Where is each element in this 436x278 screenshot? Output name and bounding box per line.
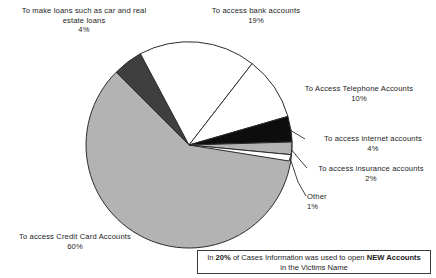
slice-label-insurance-accounts: To access insurance accounts 2%: [306, 164, 436, 183]
callout-percent-bold: 20%: [216, 253, 231, 262]
slice-label-credit-card-accounts: To access Credit Card Accounts 60%: [2, 232, 148, 251]
slice-label-other: Other 1%: [307, 192, 347, 211]
slice-label-internet-accounts-pct: 4%: [310, 144, 436, 154]
slice-label-loans-line1: To make loans such as car and real: [22, 6, 147, 15]
slice-label-telephone-accounts-pct: 10%: [289, 94, 429, 104]
slice-label-bank-accounts-pct: 19%: [196, 16, 316, 26]
callout-note-box: In 20% of Cases Information was used to …: [197, 250, 431, 274]
pie-slices: [86, 42, 292, 248]
slice-label-credit-card-accounts-pct: 60%: [2, 242, 148, 252]
slice-label-credit-card-accounts-name: To access Credit Card Accounts: [19, 232, 131, 241]
slice-label-internet-accounts-name: To access internet accounts: [324, 134, 422, 143]
slice-label-telephone-accounts-name: To Access Telephone Accounts: [305, 84, 413, 93]
slice-label-loans-line2: estate loans: [63, 16, 106, 25]
slice-label-bank-accounts-name: To access bank accounts: [212, 6, 300, 15]
callout-text-mid: of Cases Information was used to open: [231, 253, 367, 262]
callout-new-accounts-bold: NEW Accounts: [367, 253, 421, 262]
pie-chart-figure: To make loans such as car and real estat…: [0, 0, 436, 278]
slice-label-insurance-accounts-pct: 2%: [306, 174, 436, 184]
slice-label-loans: To make loans such as car and real estat…: [4, 6, 164, 35]
callout-line-2: in the Victims Name: [198, 263, 430, 273]
slice-label-insurance-accounts-name: To access insurance accounts: [318, 164, 424, 173]
slice-label-other-name: Other: [307, 192, 327, 201]
callout-text-pre: In: [207, 253, 215, 262]
slice-label-internet-accounts: To access internet accounts 4%: [310, 134, 436, 153]
leader-line-insurance: [291, 149, 307, 168]
leader-lines: [290, 130, 307, 196]
slice-label-telephone-accounts: To Access Telephone Accounts 10%: [289, 84, 429, 103]
slice-label-loans-pct: 4%: [4, 25, 164, 35]
slice-label-other-pct: 1%: [307, 202, 347, 212]
callout-line-1: In 20% of Cases Information was used to …: [198, 253, 430, 263]
slice-label-bank-accounts: To access bank accounts 19%: [196, 6, 316, 25]
